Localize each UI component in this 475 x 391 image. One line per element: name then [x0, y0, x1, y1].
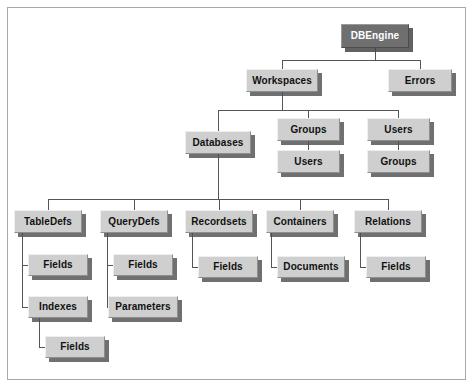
- diagram-canvas: DBEngineWorkspacesErrorsDatabasesGroupsU…: [0, 0, 475, 391]
- node-label: Workspaces: [252, 76, 312, 86]
- node-label: Indexes: [39, 302, 77, 312]
- node-label: Fields: [213, 262, 243, 272]
- node-querydefs[interactable]: QueryDefs: [100, 210, 168, 233]
- node-label: Relations: [365, 217, 411, 227]
- node-dbengine[interactable]: DBEngine: [341, 24, 409, 48]
- node-td-fields[interactable]: Fields: [28, 254, 88, 276]
- node-label: Fields: [381, 262, 411, 272]
- node-users-groups[interactable]: Groups: [367, 150, 430, 173]
- node-td-indexes[interactable]: Indexes: [28, 296, 88, 318]
- node-label: Fields: [128, 260, 158, 270]
- node-ws-groups[interactable]: Groups: [277, 118, 340, 141]
- node-workspaces[interactable]: Workspaces: [246, 69, 318, 92]
- node-label: Parameters: [115, 302, 170, 312]
- node-label: QueryDefs: [108, 217, 159, 227]
- node-label: Documents: [283, 262, 338, 272]
- node-label: Fields: [43, 260, 73, 270]
- node-label: TableDefs: [24, 217, 72, 227]
- node-ct-documents[interactable]: Documents: [277, 256, 345, 278]
- node-label: DBEngine: [351, 31, 400, 41]
- node-label: Groups: [380, 157, 416, 167]
- node-tabledefs[interactable]: TableDefs: [14, 210, 82, 233]
- node-label: Users: [384, 125, 412, 135]
- node-groups-users[interactable]: Users: [277, 150, 340, 173]
- diagram-frame: [7, 7, 466, 380]
- node-recordsets[interactable]: Recordsets: [185, 210, 253, 233]
- node-databases[interactable]: Databases: [185, 131, 251, 154]
- node-qd-fields[interactable]: Fields: [113, 254, 173, 276]
- node-rl-fields[interactable]: Fields: [366, 256, 426, 278]
- node-label: Errors: [405, 76, 436, 86]
- node-label: Users: [294, 157, 322, 167]
- node-label: Fields: [60, 342, 90, 352]
- node-label: Containers: [273, 217, 326, 227]
- node-qd-parameters[interactable]: Parameters: [108, 296, 178, 318]
- node-idx-fields[interactable]: Fields: [45, 336, 105, 358]
- node-rs-fields[interactable]: Fields: [198, 256, 258, 278]
- node-label: Groups: [290, 125, 326, 135]
- node-containers[interactable]: Containers: [266, 210, 334, 233]
- node-label: Databases: [193, 138, 244, 148]
- node-ws-users[interactable]: Users: [367, 118, 430, 141]
- node-relations[interactable]: Relations: [354, 210, 422, 233]
- node-errors[interactable]: Errors: [388, 69, 452, 92]
- node-label: Recordsets: [191, 217, 246, 227]
